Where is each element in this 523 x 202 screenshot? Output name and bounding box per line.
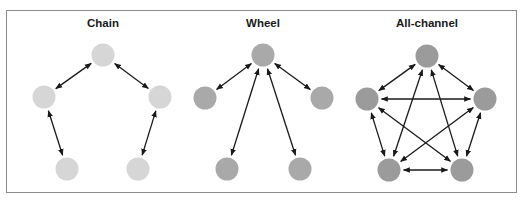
bidirectional-arrow-top-bottom-right	[431, 70, 457, 156]
node-top	[252, 44, 275, 67]
node-top	[416, 45, 439, 68]
bidirectional-arrow-right-bottom-right	[467, 113, 481, 156]
node-bottom-left	[378, 159, 401, 182]
panel-title-chain: Chain	[87, 17, 119, 29]
node-bottom-left	[56, 158, 79, 181]
bidirectional-arrow-right-bottom-left	[401, 108, 474, 162]
node-bottom-left	[216, 158, 239, 181]
node-left	[194, 87, 217, 110]
bidirectional-arrow-left-bottom-left	[48, 111, 62, 155]
bidirectional-arrow-top-left	[56, 63, 91, 88]
bidirectional-arrow-right-bottom-right	[142, 111, 156, 155]
communication-networks-diagram: Chain Wheel All-channel	[0, 0, 523, 202]
node-right	[149, 86, 172, 109]
bidirectional-arrow-top-left	[217, 64, 252, 90]
bidirectional-arrow-top-left	[379, 64, 415, 90]
node-right	[311, 87, 334, 110]
node-left	[33, 86, 56, 109]
bidirectional-arrow-top-bottom-right	[268, 69, 296, 155]
node-left	[356, 88, 379, 111]
node-top	[92, 44, 115, 67]
node-bottom-right	[127, 158, 150, 181]
bidirectional-arrow-top-right	[275, 64, 311, 90]
node-bottom-right	[289, 158, 312, 181]
node-bottom-right	[451, 159, 474, 182]
bidirectional-arrow-top-right	[439, 65, 474, 91]
bidirectional-arrow-top-right	[115, 64, 149, 89]
bidirectional-arrow-left-bottom-right	[379, 108, 451, 162]
panel-chain: Chain	[33, 17, 172, 181]
panel-title-all-channel: All-channel	[396, 17, 458, 29]
panel-wheel: Wheel	[194, 17, 334, 181]
bidirectional-arrow-left-bottom-left	[371, 113, 384, 156]
bidirectional-arrow-top-bottom-left	[394, 70, 423, 156]
bidirectional-arrow-top-bottom-left	[231, 69, 258, 155]
panel-title-wheel: Wheel	[246, 17, 280, 29]
panel-all-channel: All-channel	[356, 17, 497, 182]
node-right	[474, 88, 497, 111]
